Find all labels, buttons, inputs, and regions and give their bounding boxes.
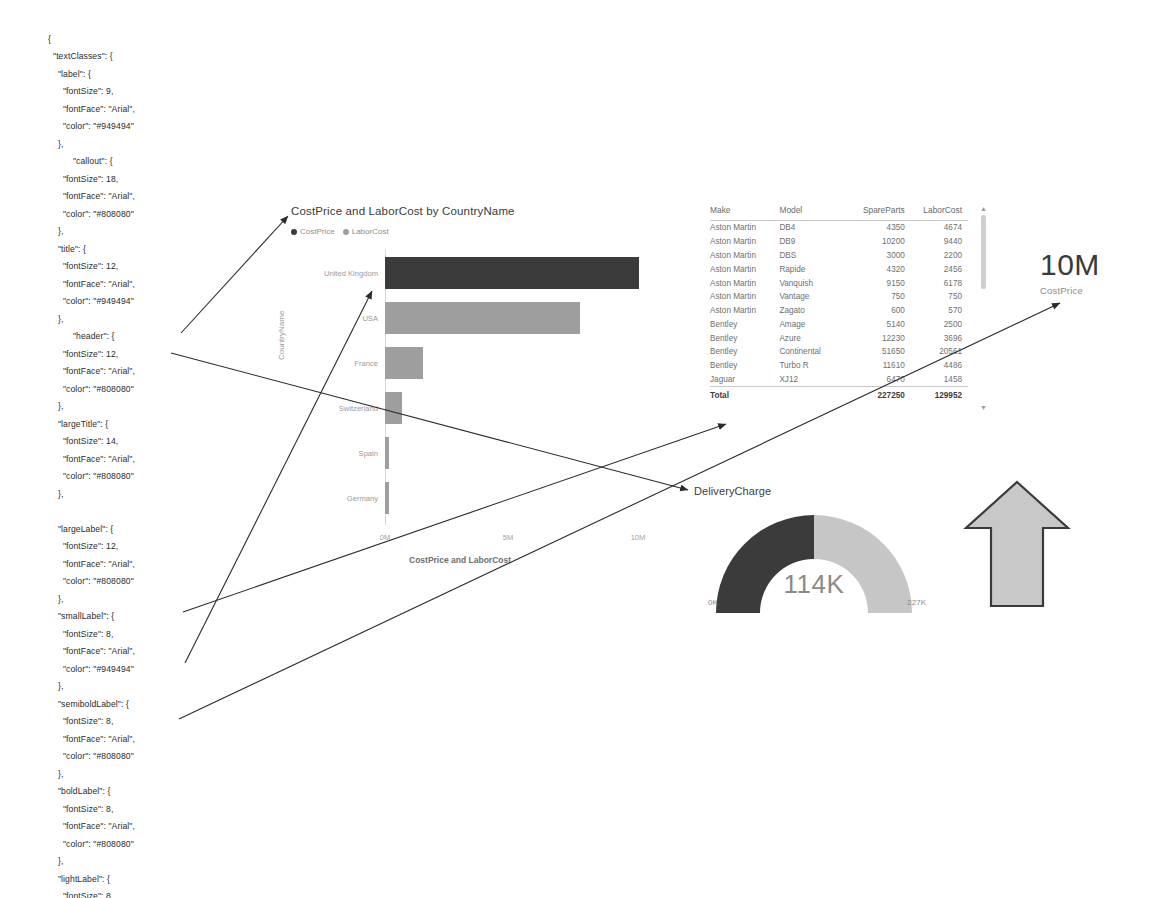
table-row[interactable]: Aston MartinVanquish91506178	[710, 276, 968, 290]
legend-label-costprice: CostPrice	[300, 227, 335, 236]
cell-make: Bentley	[710, 345, 779, 359]
cell-model: XJ12	[779, 373, 849, 387]
table-row[interactable]: Aston MartinDB9102009440	[710, 235, 968, 249]
bar-rect[interactable]	[385, 347, 423, 379]
bar-row[interactable]: Switzerland	[385, 385, 661, 430]
column-header-laborcost[interactable]: LaborCost	[911, 203, 968, 221]
scroll-track[interactable]	[981, 212, 986, 404]
cell-laborcost: 1458	[911, 373, 968, 387]
cell-laborcost: 2200	[911, 249, 968, 263]
x-axis-tick: 10M	[631, 533, 646, 542]
bar-rect[interactable]	[385, 482, 389, 514]
scroll-thumb[interactable]	[981, 215, 986, 289]
bar-category-label: France	[354, 358, 385, 367]
x-axis-tick: 5M	[503, 533, 513, 542]
callout-card-visual[interactable]: 10M CostPrice	[1040, 248, 1100, 296]
column-header-spareparts[interactable]: SpareParts	[850, 203, 911, 221]
table-row[interactable]: BentleyTurbo R116104486	[710, 359, 968, 373]
cell-spareparts: 5140	[850, 317, 911, 331]
data-table[interactable]: Make Model SpareParts LaborCost Aston Ma…	[710, 203, 968, 403]
bar-rect[interactable]	[385, 437, 389, 469]
gauge-min-label: 0K	[708, 598, 718, 607]
cell-laborcost: 4486	[911, 359, 968, 373]
legend-item-laborcost[interactable]: LaborCost	[343, 227, 389, 236]
bar-chart-visual[interactable]: CostPrice and LaborCost by CountryName C…	[291, 205, 661, 555]
cell-make: Aston Martin	[710, 235, 779, 249]
bar-category-label: Switzerland	[339, 403, 385, 412]
bar-row[interactable]: USA	[385, 295, 661, 340]
cell-make: Aston Martin	[710, 249, 779, 263]
cell-spareparts: 6470	[850, 373, 911, 387]
table-row[interactable]: Aston MartinZagato600570	[710, 304, 968, 318]
cell-make: Jaguar	[710, 373, 779, 387]
cell-make: Aston Martin	[710, 290, 779, 304]
cell-laborcost: 3696	[911, 331, 968, 345]
gauge-visual[interactable]: DeliveryCharge 114K 0K 227K	[694, 485, 934, 620]
cell-laborcost: 2500	[911, 317, 968, 331]
table-row[interactable]: Aston MartinRapide43202456	[710, 262, 968, 276]
cell-make: Bentley	[710, 331, 779, 345]
chart-legend[interactable]: CostPrice LaborCost	[291, 227, 389, 236]
bar-row[interactable]: United Kingdom	[385, 250, 661, 295]
legend-label-laborcost: LaborCost	[352, 227, 389, 236]
table-row[interactable]: BentleyAmage51402500	[710, 317, 968, 331]
bar-category-label: USA	[362, 313, 385, 322]
chevron-down-icon[interactable]: ▼	[980, 404, 987, 411]
bar-category-label: Spain	[359, 448, 385, 457]
table-row[interactable]: BentleyContinental5165020561	[710, 345, 968, 359]
bar-row[interactable]: Germany	[385, 475, 661, 520]
gauge-title: DeliveryCharge	[694, 485, 771, 497]
cell-spareparts: 3000	[850, 249, 911, 263]
table-scrollbar[interactable]: ▲ ▼	[979, 205, 988, 411]
x-axis-tick: 0M	[380, 533, 390, 542]
table-row[interactable]: JaguarXJ1264701458	[710, 373, 968, 387]
bar-rect[interactable]	[385, 257, 639, 289]
table-row[interactable]: Aston MartinDBS30002200	[710, 249, 968, 263]
y-axis-title: CountryName	[277, 311, 286, 360]
legend-item-costprice[interactable]: CostPrice	[291, 227, 335, 236]
cell-laborcost: 9440	[911, 235, 968, 249]
table-row[interactable]: Aston MartinVantage750750	[710, 290, 968, 304]
callout-value: 10M	[1040, 248, 1100, 282]
cell-make: Aston Martin	[710, 221, 779, 235]
table-total-row: Total227250129952	[710, 387, 968, 403]
cell-spareparts: 51650	[850, 345, 911, 359]
cell-spareparts: 4350	[850, 221, 911, 235]
cell-model: Turbo R	[779, 359, 849, 373]
up-arrow-shape[interactable]	[962, 478, 1072, 610]
bar-row[interactable]: France	[385, 340, 661, 385]
callout-label: CostPrice	[1040, 285, 1100, 296]
bar-rect[interactable]	[385, 392, 402, 424]
total-cell: Total	[710, 387, 779, 403]
annotated-theme-diagram: { "textClasses": { "label": { "fontSize"…	[0, 0, 1151, 898]
total-cell: 227250	[850, 387, 911, 403]
cell-make: Bentley	[710, 317, 779, 331]
column-header-make[interactable]: Make	[710, 203, 779, 221]
cell-laborcost: 570	[911, 304, 968, 318]
table-row[interactable]: Aston MartinDB443504674	[710, 221, 968, 235]
table-header-row[interactable]: Make Model SpareParts LaborCost	[710, 203, 968, 221]
theme-json-code: { "textClasses": { "label": { "fontSize"…	[48, 31, 278, 898]
cell-make: Aston Martin	[710, 304, 779, 318]
table-visual[interactable]: Make Model SpareParts LaborCost Aston Ma…	[710, 203, 988, 425]
cell-spareparts: 10200	[850, 235, 911, 249]
cell-make: Aston Martin	[710, 262, 779, 276]
cell-model: Continental	[779, 345, 849, 359]
cell-laborcost: 4674	[911, 221, 968, 235]
cell-spareparts: 12230	[850, 331, 911, 345]
bar-category-label: Germany	[347, 493, 385, 502]
cell-model: Amage	[779, 317, 849, 331]
cell-make: Aston Martin	[710, 276, 779, 290]
chevron-up-icon[interactable]: ▲	[980, 205, 987, 212]
column-header-model[interactable]: Model	[779, 203, 849, 221]
cell-make: Bentley	[710, 359, 779, 373]
table-row[interactable]: BentleyAzure122303696	[710, 331, 968, 345]
cell-spareparts: 9150	[850, 276, 911, 290]
cell-laborcost: 6178	[911, 276, 968, 290]
bar-category-label: United Kingdom	[324, 268, 385, 277]
cell-model: Vanquish	[779, 276, 849, 290]
bar-row[interactable]: Spain	[385, 430, 661, 475]
x-axis-title: CostPrice and LaborCost	[409, 555, 511, 565]
bar-rect[interactable]	[385, 302, 580, 334]
cell-model: Rapide	[779, 262, 849, 276]
